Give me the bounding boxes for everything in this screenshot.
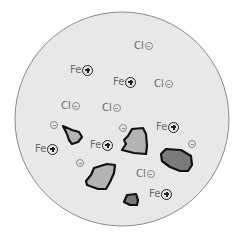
minus-charge-icon [147,170,155,178]
plus-charge-icon [102,140,113,151]
minus-charge-icon [113,104,121,112]
iron-ion: Fe [113,76,136,88]
chloride-ion: Cl [102,102,121,114]
ion-symbol: Cl [136,168,146,180]
ion-symbol: Fe [149,188,160,200]
iron-ion: Fe [70,64,93,76]
minus-charge-icon [165,80,173,88]
ion-symbol: Cl [61,100,71,112]
iron-ion: Fe [90,139,113,151]
ion-symbol: Fe [35,143,46,155]
chloride-ion: Cl [154,78,173,90]
plus-charge-icon [82,65,93,76]
ion-symbol: Fe [90,139,101,151]
plus-charge-icon [47,144,58,155]
chloride-ion: Cl [61,100,80,112]
ion-symbol: Cl [154,78,164,90]
solution-diagram: ClFeFeClClClFeFeFeClFe [0,0,243,233]
minus-charge-icon [119,124,127,132]
minus-charge-icon [145,42,153,50]
beaker-circle [15,12,229,226]
minus-charge-icon [50,121,58,129]
diagram-canvas [0,0,243,233]
particle-small-dark [124,194,138,205]
ion-symbol: Fe [113,76,124,88]
iron-ion: Fe [35,143,58,155]
plus-charge-icon [168,122,179,133]
chloride-ion: Cl [136,168,155,180]
minus-charge-icon [72,102,80,110]
iron-ion: Fe [149,188,172,200]
ion-symbol: Fe [156,121,167,133]
iron-ion: Fe [156,121,179,133]
ion-symbol: Cl [134,40,144,52]
plus-charge-icon [161,189,172,200]
minus-charge-icon [188,140,196,148]
ion-symbol: Cl [102,102,112,114]
chloride-ion: Cl [134,40,153,52]
ion-symbol: Fe [70,64,81,76]
plus-charge-icon [125,77,136,88]
minus-charge-icon [76,159,84,167]
